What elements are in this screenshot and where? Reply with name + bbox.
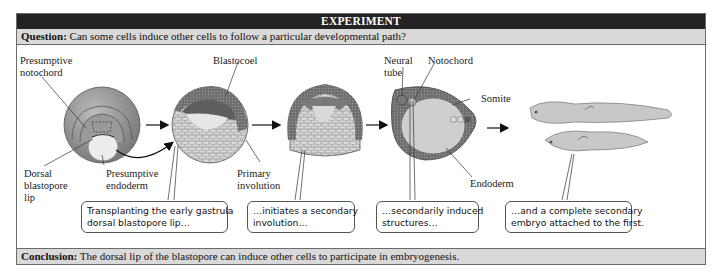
label-presumptive-notochord: Presumptive notochord bbox=[20, 55, 73, 79]
callout-secondary-embryo: …and a complete secondary embryo attache… bbox=[505, 201, 632, 233]
label-notochord: Notochord bbox=[428, 55, 473, 67]
label-dorsal-blastopore-lip: Dorsal blastopore lip bbox=[24, 168, 68, 204]
callout-secondary-involution: …initiates a secondary involution… bbox=[247, 201, 355, 233]
label-blastocoel: Blastocoel bbox=[213, 55, 257, 67]
label-primary-involution: Primary involution bbox=[237, 168, 280, 192]
embryo-cross-section bbox=[391, 87, 476, 160]
label-neural-tube: Neural tube bbox=[384, 55, 413, 79]
label-presumptive-endoderm: Presumptive endoderm bbox=[106, 168, 159, 192]
embryo-illustration bbox=[0, 0, 727, 276]
label-somite: Somite bbox=[481, 93, 511, 105]
conjoined-embryos bbox=[530, 102, 672, 151]
early-gastrula bbox=[64, 87, 140, 163]
label-endoderm: Endoderm bbox=[470, 178, 514, 190]
gastrula-transplant bbox=[172, 86, 248, 163]
callout-transplanting: Transplanting the early gastrula dorsal … bbox=[81, 201, 228, 233]
secondary-involution bbox=[287, 84, 362, 156]
callout-induced-structures: …secondarily induced structures… bbox=[376, 201, 479, 233]
